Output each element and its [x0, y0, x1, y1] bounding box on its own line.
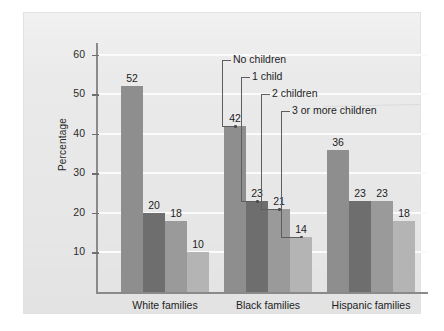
y-tick-label: 40 — [59, 128, 85, 139]
bar — [327, 150, 349, 292]
bar — [187, 252, 209, 292]
y-tick-mark — [92, 252, 99, 254]
y-tick-mark — [92, 55, 99, 57]
bar — [246, 201, 268, 292]
leader-line-horizontal — [261, 94, 270, 95]
leader-line-horizontal — [281, 111, 290, 112]
series-label: No children — [233, 54, 286, 65]
y-tick-label: 20 — [59, 207, 85, 218]
bar — [393, 221, 415, 292]
y-tick-label: 60 — [59, 49, 85, 60]
y-tick-label: 30 — [59, 167, 85, 178]
series-label: 2 children — [272, 88, 318, 99]
x-axis-line — [96, 292, 428, 294]
bar-value-label: 14 — [286, 224, 316, 235]
bar-value-label: 42 — [220, 113, 250, 124]
y-tick-mark — [92, 94, 99, 96]
bar-value-label: 21 — [264, 196, 294, 207]
bar — [143, 213, 165, 292]
bar — [290, 237, 312, 292]
bar — [224, 126, 246, 292]
x-tick-label: White families — [110, 299, 220, 311]
bar — [165, 221, 187, 292]
bar-value-label: 23 — [367, 188, 397, 199]
bar-value-label: 36 — [323, 137, 353, 148]
y-tick-mark — [92, 134, 99, 136]
y-tick-label: 50 — [59, 88, 85, 99]
leader-line-foot — [261, 209, 279, 210]
leader-endpoint-dot — [300, 236, 303, 239]
x-tick-label: Hispanic families — [316, 299, 426, 311]
x-tick-label: Black families — [213, 299, 323, 311]
bar-value-label: 18 — [389, 208, 419, 219]
gridline — [98, 133, 428, 135]
bar — [268, 209, 290, 292]
leader-line-horizontal — [222, 60, 231, 61]
leader-endpoint-dot — [256, 200, 259, 203]
leader-line-foot — [241, 201, 257, 202]
gridline — [98, 172, 428, 174]
leader-line-vertical — [222, 60, 223, 126]
leader-line-foot — [281, 237, 301, 238]
bar-value-label: 52 — [117, 73, 147, 84]
leader-line-horizontal — [241, 77, 250, 78]
bar — [121, 86, 143, 292]
leader-line-vertical — [261, 94, 262, 209]
leader-line-vertical — [241, 77, 242, 201]
figure-scan: Percentage 102030405060 5220181042232114… — [0, 0, 444, 331]
series-label: 1 child — [252, 71, 282, 82]
chart-plate: Percentage 102030405060 5220181042232114… — [24, 13, 420, 313]
leader-line-vertical — [281, 111, 282, 237]
y-tick-mark — [92, 213, 99, 215]
y-axis-line — [96, 43, 98, 294]
y-tick-label: 10 — [59, 246, 85, 257]
leader-endpoint-dot — [234, 125, 237, 128]
y-tick-mark — [92, 173, 99, 175]
bar-value-label: 10 — [183, 239, 213, 250]
bar-value-label: 18 — [161, 208, 191, 219]
bar — [349, 201, 371, 292]
scan-speck — [234, 305, 237, 307]
